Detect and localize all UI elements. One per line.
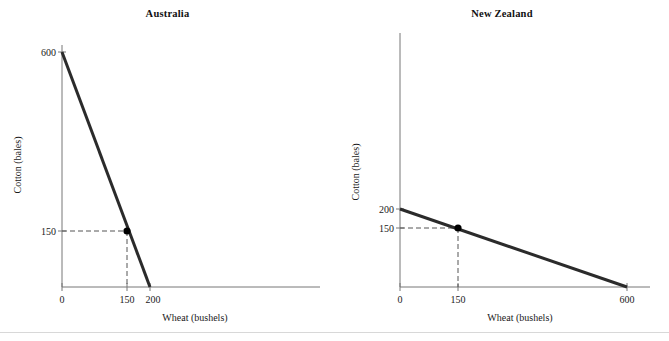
y-tick-label-600: 600 <box>34 47 56 58</box>
x-tick-label-150: 150 <box>451 294 466 305</box>
ppf-comparison-figure: Australia 600 150 0 150 20 <box>0 0 669 341</box>
plot-area-newzealand <box>335 0 669 341</box>
chart-panel-newzealand: New Zealand 200 150 0 150 <box>335 0 669 341</box>
production-point-marker <box>454 224 461 231</box>
x-axis-title: Wheat (bushels) <box>162 312 227 324</box>
ppf-curve <box>62 52 150 287</box>
x-tick-label-600: 600 <box>620 294 635 305</box>
y-axis-title: Cotton (bales) <box>12 137 24 194</box>
footer-divider <box>0 332 669 333</box>
y-tick-label-150: 150 <box>34 226 56 237</box>
y-tick-label-150: 150 <box>372 223 394 234</box>
ppf-curve <box>400 209 627 287</box>
chart-panel-australia: Australia 600 150 0 150 20 <box>0 0 335 341</box>
y-tick-label-200: 200 <box>372 204 394 215</box>
x-tick-label-150: 150 <box>120 294 135 305</box>
y-axis-title: Cotton (bales) <box>350 144 362 201</box>
x-tick-label-200: 200 <box>146 294 161 305</box>
x-tick-label-0: 0 <box>60 294 65 305</box>
production-point-marker <box>123 227 130 234</box>
x-axis-title: Wheat (bushels) <box>487 312 552 324</box>
x-tick-label-0: 0 <box>398 294 403 305</box>
